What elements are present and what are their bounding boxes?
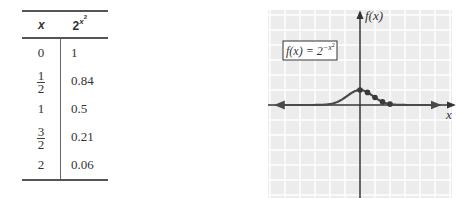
- data-point: [357, 87, 363, 93]
- data-point: [380, 99, 386, 105]
- function-label-lhs: f(x) = 2: [286, 44, 323, 58]
- data-point: [365, 90, 371, 96]
- y-axis-label: f(x): [365, 8, 383, 23]
- data-point: [372, 95, 378, 101]
- data-point: [387, 101, 393, 107]
- function-graph: xf(x)f(x) = 2−x2: [0, 0, 476, 198]
- x-axis-label: x: [445, 107, 452, 122]
- function-label-exponent-power: 2: [332, 42, 335, 48]
